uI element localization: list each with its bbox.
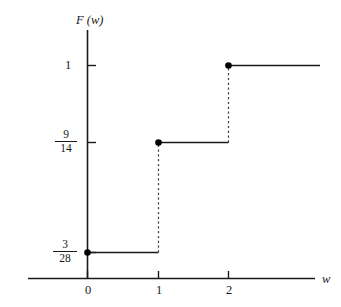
x-tick-label-1: 1 — [151, 284, 167, 297]
data-point-marker-2 — [225, 62, 232, 69]
data-point-marker-0 — [84, 249, 91, 256]
fraction-denominator: 14 — [55, 142, 77, 154]
y-tick-label-3-28: 3 28 — [53, 238, 77, 264]
y-tick-label-9-14: 9 14 — [55, 128, 77, 154]
y-tick-label-1: 1 — [60, 59, 76, 72]
cdf-step-function-figure: F (w) w 1 9 14 3 28 0 1 2 — [0, 0, 341, 307]
x-axis-title: w — [322, 273, 330, 286]
fraction-numerator: 9 — [55, 128, 77, 140]
data-point-marker-1 — [155, 139, 162, 146]
plot-canvas — [0, 0, 341, 307]
x-tick-label-2: 2 — [221, 284, 237, 297]
fraction-numerator: 3 — [53, 238, 77, 250]
x-tick-label-0: 0 — [80, 284, 96, 297]
y-axis-title: F (w) — [76, 14, 103, 27]
fraction-denominator: 28 — [53, 252, 77, 264]
